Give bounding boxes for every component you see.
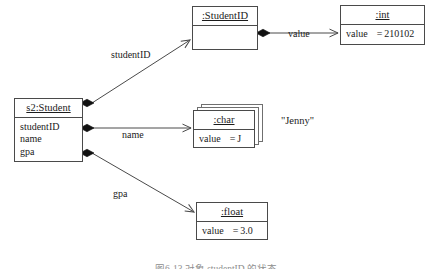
slot-value: 3.0 (240, 225, 253, 238)
attribute-row: studentID (20, 121, 77, 134)
slot-row: value = J (199, 133, 249, 146)
attribute-row: name (20, 133, 77, 146)
object-slots-char: value = J (194, 130, 254, 150)
slot-value: 210102 (384, 28, 414, 41)
link-label-studentID: studentID (111, 50, 150, 60)
object-float[interactable]: :float value = 3.0 (196, 202, 268, 240)
slot-row: value = 210102 (346, 28, 419, 41)
aggregation-diamond (256, 29, 270, 37)
object-slots-float: value = 3.0 (197, 222, 267, 242)
object-header-text: :StudentID (202, 10, 248, 21)
object-header-text: :float (221, 206, 243, 217)
slot-name: value (199, 133, 221, 146)
uml-object-diagram: studentID name gpa value "Jenny" s2:Stud… (0, 0, 432, 269)
object-header-text: :char (214, 114, 235, 125)
string-value-annotation: "Jenny" (281, 116, 314, 127)
slot-name: value (346, 28, 368, 41)
link-label-gpa: gpa (113, 189, 127, 199)
object-header-float: :float (197, 203, 267, 222)
object-slots-int: value = 210102 (341, 25, 424, 45)
slot-equals: = (368, 28, 385, 41)
object-s2-student[interactable]: s2:Student studentID name gpa (14, 98, 83, 162)
object-header-int: :int (341, 6, 424, 25)
slot-value: J (237, 133, 241, 146)
slot-equals: = (221, 133, 238, 146)
object-char[interactable]: :char value = J (193, 110, 255, 148)
object-attributes-s2-student: studentID name gpa (15, 118, 82, 163)
attribute-row: gpa (20, 146, 77, 159)
slot-equals: = (224, 225, 241, 238)
object-header-s2-student: s2:Student (15, 99, 82, 118)
object-header-char: :char (194, 111, 254, 130)
object-int[interactable]: :int value = 210102 (340, 5, 425, 45)
object-header-text: :int (375, 9, 389, 20)
link-label-value: value (288, 29, 310, 39)
slot-name: value (202, 225, 224, 238)
object-header-studentid: :StudentID (193, 7, 257, 26)
figure-caption: 图6-13 对象 studentID 的状态 (0, 264, 432, 269)
link-gpa (80, 149, 194, 212)
link-label-name: name (122, 130, 144, 140)
object-studentid[interactable]: :StudentID (192, 6, 258, 50)
object-header-text: s2:Student (26, 102, 70, 113)
slot-row: value = 3.0 (202, 225, 262, 238)
